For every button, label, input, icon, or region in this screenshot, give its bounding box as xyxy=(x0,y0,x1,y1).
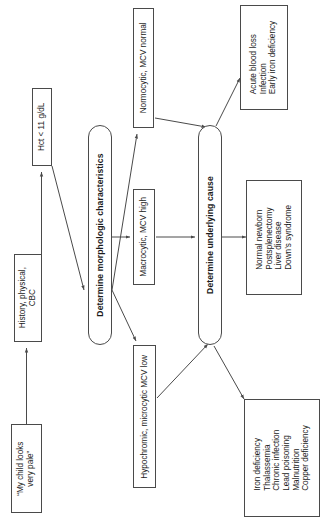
flowchart-canvas: “My child looks very pale” History, phys… xyxy=(0,0,332,523)
edge-cause-to-micro-causes xyxy=(214,346,244,399)
edge-hct-to-morphology xyxy=(52,166,84,290)
node-chief-complaint-label: “My child looks very pale” xyxy=(17,441,36,495)
node-causes-normocytic[interactable]: Acute blood loss Infection Early iron de… xyxy=(240,5,288,110)
node-normocytic-label: Normocytic, MCV normal xyxy=(139,22,149,113)
edge-normocytic-to-cause xyxy=(155,118,206,127)
node-normocytic[interactable]: Normocytic, MCV normal xyxy=(133,8,154,128)
node-determine-morphologic-characteristics[interactable]: Determine morphologic characteristics xyxy=(88,125,112,345)
node-chief-complaint[interactable]: “My child looks very pale” xyxy=(11,424,42,513)
node-history-physical-cbc-label: History, physical, CBC xyxy=(18,267,37,328)
edge-cause-to-acute-causes xyxy=(216,78,240,126)
node-determine-underlying-cause-label: Determine underlying cause xyxy=(205,176,215,294)
node-causes-normocytic-label: Acute blood loss Infection Early iron de… xyxy=(250,21,279,94)
node-macrocytic[interactable]: Macrocytic, MCV high xyxy=(133,189,155,285)
node-determine-underlying-cause[interactable]: Determine underlying cause xyxy=(198,125,222,345)
node-microcytic[interactable]: Hypochromic, microcytic MCV low xyxy=(133,345,156,488)
edge-microcytic-to-cause xyxy=(157,344,208,398)
node-microcytic-label: Hypochromic, microcytic MCV low xyxy=(140,355,150,479)
node-causes-macrocytic[interactable]: Normal newborn Postsplenectomy Liver dis… xyxy=(246,180,302,295)
node-causes-microcytic-label: Iron deficiency Thalassemia Chronic infe… xyxy=(253,425,311,491)
node-history-physical-cbc[interactable]: History, physical, CBC xyxy=(14,254,42,342)
node-causes-microcytic[interactable]: Iron deficiency Thalassemia Chronic infe… xyxy=(244,399,320,517)
node-hct-threshold-label: Hct < 11 g/dL xyxy=(37,103,47,151)
node-causes-macrocytic-label: Normal newborn Postsplenectomy Liver dis… xyxy=(255,205,294,270)
node-hct-threshold[interactable]: Hct < 11 g/dL xyxy=(32,88,52,166)
node-determine-morphologic-characteristics-label: Determine morphologic characteristics xyxy=(95,153,105,316)
node-macrocytic-label: Macrocytic, MCV high xyxy=(139,197,149,277)
edge-morphology-to-microcytic xyxy=(112,290,136,341)
